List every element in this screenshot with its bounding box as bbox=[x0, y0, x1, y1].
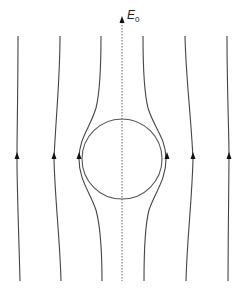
field-line-inner-right bbox=[143, 36, 166, 281]
field-diagram bbox=[0, 0, 247, 293]
field-arrow-icon bbox=[191, 152, 196, 159]
field-arrow-icon bbox=[52, 152, 57, 159]
field-arrow-icon bbox=[77, 152, 82, 159]
axis-arrow-icon bbox=[120, 16, 125, 23]
field-symbol: E bbox=[127, 8, 135, 22]
field-arrow-icon bbox=[15, 152, 20, 159]
field-arrow-icon bbox=[227, 152, 232, 159]
field-label: E0 bbox=[127, 8, 139, 24]
field-subscript: 0 bbox=[135, 15, 139, 24]
